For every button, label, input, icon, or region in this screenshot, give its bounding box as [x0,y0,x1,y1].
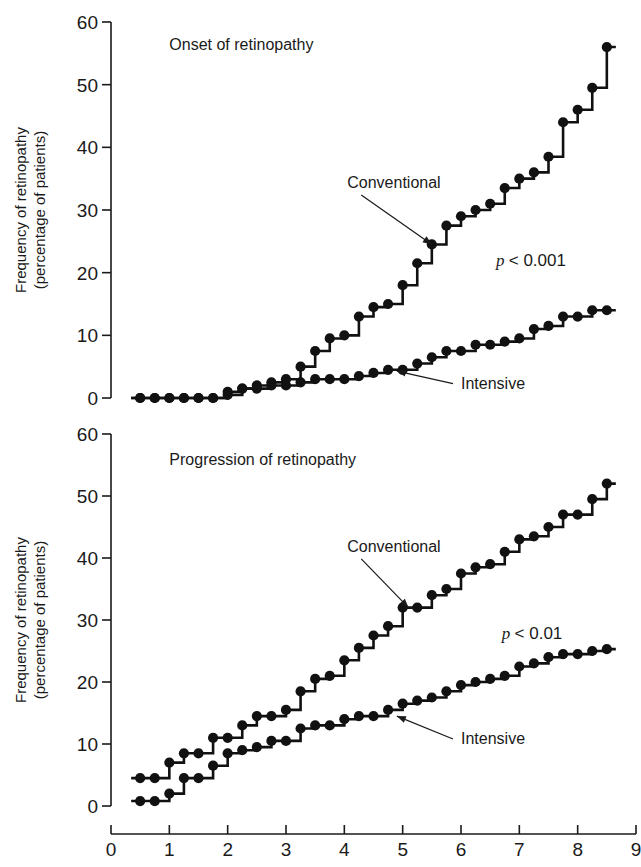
annotation-arrow-line [361,559,408,608]
data-point [500,183,510,193]
data-point [587,83,597,93]
y-axis-tick-label: 30 [77,200,98,221]
data-point [208,393,218,403]
series-step-line-intensive [131,649,616,801]
y-axis-title-line1: Frequency of retinopathy [12,537,29,703]
y-axis-title-line2: (percentage of patients) [31,541,48,699]
data-point [587,305,597,315]
data-point [295,686,305,696]
y-axis-tick-label: 0 [87,388,98,409]
data-point [281,380,291,390]
data-point [266,380,276,390]
data-point [529,167,539,177]
data-point [412,603,422,613]
data-point [573,105,583,115]
data-point [223,390,233,400]
data-point [602,644,612,654]
data-point [485,199,495,209]
data-point [223,733,233,743]
panel-title: Onset of retinopathy [169,36,313,53]
data-point [573,311,583,321]
data-point [368,630,378,640]
data-point [514,333,524,343]
data-point [135,393,145,403]
data-point [164,789,174,799]
x-axis-tick-label: 3 [281,839,292,860]
x-axis-tick-label: 2 [222,839,233,860]
data-point [529,324,539,334]
x-axis-tick-label: 0 [106,839,117,860]
data-point [470,340,480,350]
data-point [543,321,553,331]
x-axis-tick-label: 9 [631,839,641,860]
data-point [354,311,364,321]
figure-canvas: 0102030405060Frequency of retinopathy(pe… [0,0,641,867]
data-point [456,568,466,578]
retinopathy-figure: 0102030405060Frequency of retinopathy(pe… [0,0,641,867]
data-point [529,658,539,668]
data-point [543,652,553,662]
data-point [281,736,291,746]
data-point [281,705,291,715]
y-axis-title-line2: (percentage of patients) [31,131,48,289]
p-value-annotation: p < 0.001 [495,251,566,270]
data-point [558,649,568,659]
data-point [529,531,539,541]
x-axis-tick-label: 6 [456,839,467,860]
data-point [295,362,305,372]
data-point [587,494,597,504]
data-point [383,299,393,309]
data-point [456,346,466,356]
data-point [325,374,335,384]
data-point [500,671,510,681]
data-point [310,374,320,384]
data-point [354,711,364,721]
y-axis-tick-label: 60 [77,424,98,445]
data-point [456,680,466,690]
annotation-arrow-line [397,716,453,739]
data-point [164,393,174,403]
data-point [354,371,364,381]
data-point [456,211,466,221]
data-point [237,720,247,730]
data-point [543,522,553,532]
data-point [164,758,174,768]
data-point [398,280,408,290]
data-point [339,655,349,665]
data-point [602,305,612,315]
data-point [427,352,437,362]
chart-panel-progression: 0102030405060Frequency of retinopathy(pe… [12,424,641,867]
series-label-conventional: Conventional [347,538,440,555]
data-point [223,748,233,758]
data-point [441,584,451,594]
x-axis-tick-label: 1 [164,839,175,860]
data-point [368,368,378,378]
data-point [573,509,583,519]
series-label-conventional: Conventional [347,174,440,191]
data-point [252,711,262,721]
data-point [412,358,422,368]
y-axis-tick-label: 0 [87,796,98,817]
data-point [412,258,422,268]
y-axis-tick-label: 10 [77,734,98,755]
data-point [339,714,349,724]
x-axis-tick-label: 4 [339,839,350,860]
data-point [252,384,262,394]
data-point [470,205,480,215]
data-point [602,42,612,52]
data-point [427,692,437,702]
data-point [514,534,524,544]
data-point [485,674,495,684]
data-point [193,748,203,758]
y-axis-tick-label: 40 [77,548,98,569]
data-point [135,773,145,783]
chart-panel-onset: 0102030405060Frequency of retinopathy(pe… [12,12,616,409]
data-point [441,346,451,356]
annotation-arrow-head [397,716,407,723]
data-point [543,152,553,162]
data-point [295,377,305,387]
data-point [470,562,480,572]
data-point [339,374,349,384]
data-point [368,302,378,312]
data-point [295,723,305,733]
